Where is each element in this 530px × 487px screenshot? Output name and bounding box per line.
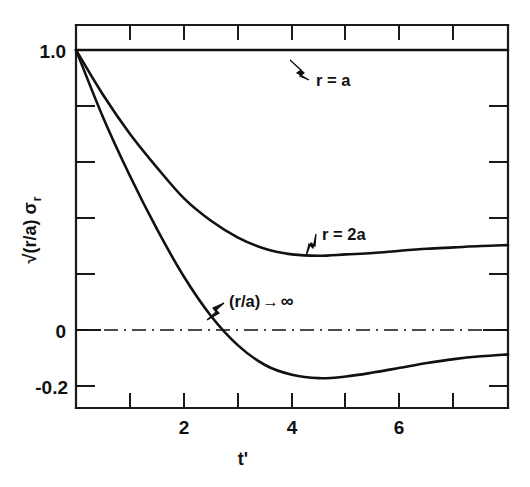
y-axis-title: √(r/a) σr <box>20 196 44 263</box>
annotation-label-r-equals-a: r = a <box>316 71 351 89</box>
annotation-infinity-symbol: ∞ <box>281 291 294 311</box>
y-tick-label-bottom: -0.2 <box>35 377 68 398</box>
curve-r-over-a-infinity <box>76 50 508 378</box>
pointer-arrow-icon <box>290 60 309 80</box>
annotation-prefix: (r/a) <box>229 292 260 310</box>
plot-frame <box>76 25 508 408</box>
pointer-arrow-icon <box>207 303 224 320</box>
y-axis-title-group: √(r/a) σr <box>20 196 44 263</box>
y-axis-title-subscript: r <box>30 196 44 201</box>
annotation-label-r-equals-2a: r = 2a <box>322 225 366 243</box>
annotation-r-equals-2a: r = 2a <box>306 225 366 256</box>
curve-r-equals-2a <box>76 50 508 256</box>
pointer-arrow-icon <box>306 234 316 256</box>
x-tick-label-2: 2 <box>179 417 190 438</box>
annotation-r-over-a-infinity: (r/a)→∞ <box>207 291 294 320</box>
y-tick-label-top: 1.0 <box>40 41 66 62</box>
top-axis-ticks <box>130 25 453 40</box>
annotation-label-r-over-a-infinity: (r/a)→∞ <box>229 291 294 311</box>
annotation-arrow-icon: → <box>262 292 279 310</box>
x-axis-ticks <box>130 393 453 408</box>
x-tick-label-4: 4 <box>287 417 298 438</box>
y-axis-ticks <box>76 106 101 386</box>
figure-container: r = a r = 2a (r/a)→∞ 1.0 0 -0.2 2 4 6 t'… <box>0 0 530 487</box>
chart-canvas: r = a r = 2a (r/a)→∞ 1.0 0 -0.2 2 4 6 t'… <box>0 0 530 487</box>
annotation-r-equals-a: r = a <box>290 60 351 89</box>
x-tick-label-6: 6 <box>394 417 405 438</box>
x-axis-title: t' <box>238 449 248 469</box>
y-axis-title-main: √(r/a) σ <box>20 202 40 263</box>
y-tick-label-zero: 0 <box>55 321 66 342</box>
